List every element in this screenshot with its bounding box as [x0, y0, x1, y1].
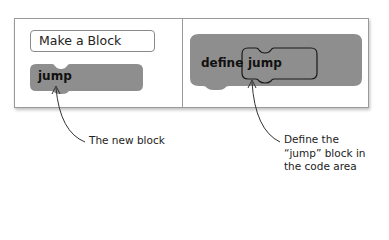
arrow-define-icon: [248, 80, 280, 142]
new-block-caption: The new block: [89, 134, 165, 148]
define-caption: Define the “jump” block in the code area: [284, 133, 365, 174]
define-caption-line-1: Define the: [284, 133, 365, 147]
define-caption-line-2: “jump” block in: [284, 147, 365, 161]
define-caption-line-3: the code area: [284, 160, 365, 174]
arrow-new-block-icon: [52, 86, 85, 142]
